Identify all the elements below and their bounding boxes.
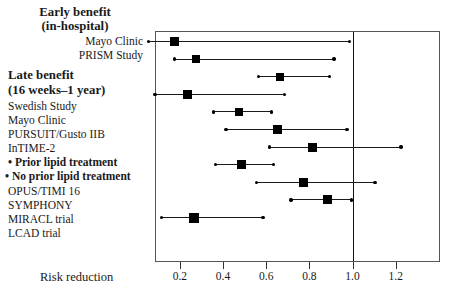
x-axis: 0.20.40.60.81.01.2 [155,262,440,290]
ci-lower-endpoint [257,75,260,78]
study-label-column: Early benefit (in-hospital) Mayo Clinic … [0,0,153,290]
forest-plot-figure: Early benefit (in-hospital) Mayo Clinic … [0,0,453,290]
study-label-prism-study: PRISM Study [0,49,143,61]
ci-upper-endpoint [283,93,286,96]
point-estimate-marker [235,108,243,116]
ci-lower-endpoint [214,163,217,166]
point-estimate-marker [192,55,200,63]
ci-upper-endpoint [332,57,335,60]
ci-lower-endpoint [153,93,156,96]
ci-lower-endpoint [224,128,227,131]
group-heading-late-line2: (16 weeks–1 year) [8,84,105,96]
point-estimate-marker [189,213,199,223]
x-axis-tick-label: 0.8 [289,270,329,282]
study-label-mayo-clinic-late: Mayo Clinic [8,114,66,126]
study-label-no-prior-lipid-treatment: • No prior lipid treatment [5,170,131,182]
study-label-pursuit-gusto-iib: PURSUIT/Gusto IIB [8,128,105,140]
study-label-mayo-clinic-early: Mayo Clinic [0,35,143,47]
ci-upper-endpoint [348,40,351,43]
point-estimate-marker [276,73,284,81]
study-label-symphony: SYMPHONY [8,199,73,211]
study-label-swedish-study: Swedish Study [8,100,77,112]
ci-lower-endpoint [289,198,292,201]
ci-upper-endpoint [350,198,353,201]
x-axis-tick [396,262,397,269]
confidence-interval-line [269,147,401,148]
ci-upper-endpoint [261,216,264,219]
plot-inner [156,32,439,261]
point-estimate-marker [183,90,192,99]
confidence-interval-line [155,94,285,95]
study-label-miracl-trial: MIRACL trial [8,213,74,225]
point-estimate-marker [308,143,317,152]
ci-upper-endpoint [345,128,348,131]
confidence-interval-line [256,182,375,183]
study-label-opus-timi-16: OPUS/TIMI 16 [8,185,80,197]
group-heading-early-line2: (in-hospital) [0,20,150,32]
point-estimate-marker [237,160,246,169]
confidence-interval-line [161,217,262,218]
confidence-interval-line [291,199,351,200]
x-axis-tick-label: 1.0 [333,270,373,282]
ci-upper-endpoint [373,181,376,184]
x-axis-label: Risk reduction [40,270,113,285]
ci-upper-endpoint [399,145,402,148]
x-axis-tick-label: 0.2 [160,270,200,282]
ci-lower-endpoint [160,216,163,219]
x-axis-tick [180,262,181,269]
x-axis-tick-label: 0.6 [246,270,286,282]
plot-frame [155,31,440,262]
group-heading-late-line1: Late benefit [8,69,74,81]
group-heading-early-line1: Early benefit [0,6,150,18]
x-axis-tick-label: 0.4 [203,270,243,282]
study-label-intime-2: InTIME-2 [8,142,55,154]
point-estimate-marker [273,125,282,134]
ci-upper-endpoint [328,75,331,78]
x-axis-tick [266,262,267,269]
x-axis-tick [309,262,310,269]
point-estimate-marker [299,178,308,187]
point-estimate-marker [170,37,179,46]
x-axis-tick [353,262,354,269]
study-label-prior-lipid-treatment: • Prior lipid treatment [8,156,117,168]
ci-upper-endpoint [272,163,275,166]
x-axis-tick-label: 1.2 [376,270,416,282]
confidence-interval-line [259,76,330,77]
point-estimate-marker [323,195,332,204]
ci-lower-endpoint [268,145,271,148]
ci-lower-endpoint [173,57,176,60]
ci-upper-endpoint [270,110,273,113]
confidence-interval-line [226,129,347,130]
ci-lower-endpoint [212,110,215,113]
study-label-lcad-trial: LCAD trial [8,227,61,239]
ci-lower-endpoint [255,181,258,184]
x-axis-tick [223,262,224,269]
